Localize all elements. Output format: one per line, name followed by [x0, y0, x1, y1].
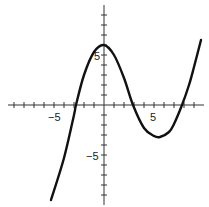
axes: [8, 5, 204, 205]
y-tick-label-neg5: −5: [86, 150, 99, 162]
function-curve: [51, 40, 201, 200]
x-tick-label-neg5: −5: [48, 111, 61, 123]
x-tick-label-5: 5: [150, 111, 156, 123]
function-graph: −555−5: [0, 0, 209, 207]
